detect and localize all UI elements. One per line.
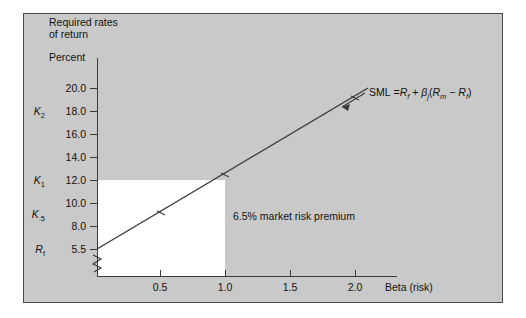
y-tick-12 [90,180,97,181]
sml-close-paren: ) [468,86,472,98]
sml-lhs: SML [369,86,391,98]
x-axis-label: Beta (risk) [385,281,433,293]
k1-subscript: 1 [41,180,45,189]
k05-letter: K [32,208,39,220]
y-tick-16 [90,134,97,135]
y-marker-k1: K1 [15,174,45,189]
y-tick-8 [90,226,97,227]
chart-title: Required rates of return [49,17,118,40]
y-marker-rf: Rf [15,243,45,258]
y-tick-20 [90,88,97,89]
y-tick-5-5 [90,249,97,250]
figure-root: 20.0 18.0 16.0 14.0 12.0 10.0 8.0 5.5 K2… [0,0,526,318]
x-tick-label-2-0: 2.0 [335,281,375,293]
x-tick-2-0 [355,270,356,277]
sml-rf2: R [458,86,466,98]
y-tick-18 [90,111,97,112]
rf-letter: R [35,243,43,255]
sml-rm: R [433,86,441,98]
risk-premium-highlight [98,180,225,276]
y-tick-label-14: 14.0 [46,151,86,163]
y-axis-line [97,58,98,276]
y-tick-label-18: 18.0 [46,105,86,117]
x-tick-label-1-5: 1.5 [270,281,310,293]
y-tick-label-12: 12.0 [46,174,86,186]
y-tick-label-10: 10.0 [46,197,86,209]
rf-subscript: f [43,249,45,258]
chart-panel [23,13,503,303]
y-tick-label-20: 20.0 [46,82,86,94]
y-marker-k2: K2 [15,105,45,120]
risk-premium-annotation: 6.5% market risk premium [233,210,355,222]
y-tick-label-8: 8.0 [46,220,86,232]
y-tick-14 [90,157,97,158]
y-tick-label-16: 16.0 [46,128,86,140]
x-tick-label-1-0: 1.0 [205,281,245,293]
sml-equation-label: SML =Rf + βj(Rm − Rf) [369,86,472,101]
y-tick-10 [90,203,97,204]
x-axis-line [97,276,397,277]
y-marker-k05: K.5 [15,208,45,223]
x-tick-1-0 [225,270,226,277]
k2-letter: K [34,105,41,117]
y-axis-unit-label: Percent [49,51,85,63]
y-tick-label-5-5: 5.5 [46,243,86,255]
k2-subscript: 2 [41,111,45,120]
x-tick-1-5 [290,270,291,277]
x-tick-label-0-5: 0.5 [140,281,180,293]
k1-letter: K [34,174,41,186]
chart-title-line1: Required rates [49,17,118,29]
x-tick-0-5 [160,270,161,277]
chart-title-line2: of return [49,29,118,41]
k05-subscript: .5 [39,214,45,223]
